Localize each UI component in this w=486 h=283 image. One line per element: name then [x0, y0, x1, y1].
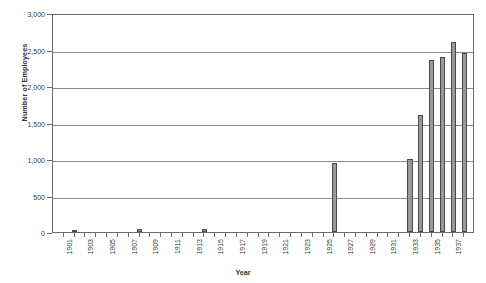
- x-tick-mark: [387, 233, 388, 237]
- x-tick-mark: [236, 233, 237, 237]
- x-tick-mark: [442, 233, 443, 237]
- x-tick-mark: [149, 233, 150, 237]
- x-tick-label: 1935: [434, 239, 441, 255]
- bar: [462, 53, 467, 232]
- x-tick-label: 1903: [87, 239, 94, 255]
- bar-series: [53, 15, 473, 232]
- x-tick-label: 1907: [131, 239, 138, 255]
- bar: [418, 115, 423, 232]
- bar: [137, 229, 142, 232]
- y-axis-ticks: 05001,0001,5002,0002,5003,000: [0, 0, 52, 283]
- x-tick-mark: [366, 233, 367, 237]
- x-tick-mark: [355, 233, 356, 237]
- x-tick-mark: [312, 233, 313, 237]
- x-tick-mark: [160, 233, 161, 237]
- x-tick-mark: [63, 233, 64, 237]
- bar: [72, 230, 77, 232]
- x-tick-label: 1917: [239, 239, 246, 255]
- x-tick-mark: [74, 233, 75, 237]
- x-tick-mark: [420, 233, 421, 237]
- x-tick-label: 1929: [369, 239, 376, 255]
- x-tick-mark: [463, 233, 464, 237]
- x-tick-mark: [193, 233, 194, 237]
- x-tick-mark: [279, 233, 280, 237]
- x-tick-label: 1931: [390, 239, 397, 255]
- x-tick-mark: [268, 233, 269, 237]
- y-tick-label: 1,000: [27, 157, 45, 164]
- y-tick-label: 1,500: [27, 120, 45, 127]
- x-tick-mark: [344, 233, 345, 237]
- bar: [451, 42, 456, 232]
- x-tick-mark: [182, 233, 183, 237]
- x-tick-mark: [409, 233, 410, 237]
- x-tick-mark: [377, 233, 378, 237]
- x-tick-mark: [106, 233, 107, 237]
- x-tick-mark: [323, 233, 324, 237]
- x-tick-label: 1909: [152, 239, 159, 255]
- x-tick-mark: [452, 233, 453, 237]
- x-tick-label: 1905: [109, 239, 116, 255]
- employee-bar-chart: Number of Employees 05001,0001,5002,0002…: [0, 0, 486, 283]
- bar: [332, 163, 337, 232]
- x-tick-label: 1913: [196, 239, 203, 255]
- bar: [202, 229, 207, 232]
- x-tick-mark: [128, 233, 129, 237]
- bar: [429, 60, 434, 232]
- x-tick-label: 1915: [217, 239, 224, 255]
- x-tick-mark: [171, 233, 172, 237]
- y-tick-label: 500: [33, 193, 45, 200]
- x-tick-mark: [247, 233, 248, 237]
- x-tick-mark: [203, 233, 204, 237]
- plot-area: [52, 14, 474, 233]
- x-tick-label: 1925: [326, 239, 333, 255]
- x-tick-mark: [258, 233, 259, 237]
- x-tick-mark: [117, 233, 118, 237]
- y-tick-label: 3,000: [27, 11, 45, 18]
- x-tick-label: 1927: [347, 239, 354, 255]
- x-tick-mark: [95, 233, 96, 237]
- x-tick-label: 1919: [261, 239, 268, 255]
- x-axis-title: Year: [0, 268, 486, 277]
- x-tick-label: 1923: [304, 239, 311, 255]
- x-tick-mark: [214, 233, 215, 237]
- x-tick-mark: [333, 233, 334, 237]
- x-tick-mark: [431, 233, 432, 237]
- bar: [407, 159, 412, 232]
- y-tick-label: 0: [41, 230, 45, 237]
- x-tick-label: 1911: [174, 239, 181, 254]
- x-tick-label: 1937: [455, 239, 462, 255]
- y-tick-label: 2,000: [27, 84, 45, 91]
- x-tick-mark: [225, 233, 226, 237]
- x-tick-label: 1901: [66, 239, 73, 255]
- y-tick-label: 2,500: [27, 47, 45, 54]
- x-tick-mark: [301, 233, 302, 237]
- x-tick-mark: [139, 233, 140, 237]
- x-tick-mark: [398, 233, 399, 237]
- bar: [440, 57, 445, 232]
- x-tick-mark: [84, 233, 85, 237]
- x-tick-label: 1921: [282, 239, 289, 255]
- x-tick-mark: [290, 233, 291, 237]
- x-tick-label: 1933: [412, 239, 419, 255]
